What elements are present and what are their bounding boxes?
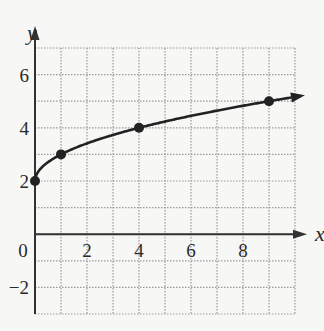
data-point bbox=[264, 96, 274, 106]
y-tick-label: −2 bbox=[9, 277, 29, 298]
x-tick-label: 8 bbox=[238, 240, 248, 261]
x-tick-label: 6 bbox=[186, 240, 196, 261]
tick-labels: 02468642−2xy bbox=[9, 20, 324, 298]
axes bbox=[31, 26, 308, 314]
data-point bbox=[56, 149, 66, 159]
x-tick-label: 2 bbox=[82, 240, 92, 261]
y-tick-label: 6 bbox=[20, 65, 30, 86]
y-axis-label: y bbox=[25, 20, 37, 45]
curve bbox=[30, 93, 305, 186]
curve-arrow-icon bbox=[290, 93, 305, 103]
x-tick-label: 0 bbox=[18, 240, 28, 261]
y-tick-label: 2 bbox=[20, 171, 30, 192]
chart: 02468642−2xy bbox=[0, 0, 324, 331]
x-tick-label: 4 bbox=[134, 240, 144, 261]
grid bbox=[35, 48, 295, 314]
y-tick-label: 4 bbox=[20, 118, 30, 139]
x-axis-label: x bbox=[314, 221, 324, 246]
curve-line bbox=[35, 98, 291, 181]
x-axis-arrow-icon bbox=[293, 230, 307, 239]
data-point bbox=[134, 123, 144, 133]
data-point bbox=[30, 176, 40, 186]
